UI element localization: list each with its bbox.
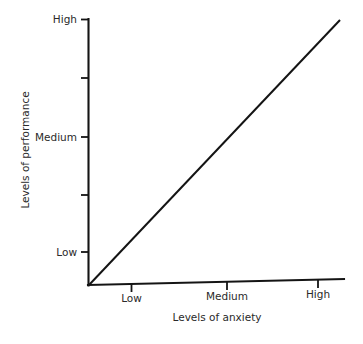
y-tick-label-high: High xyxy=(53,13,77,25)
data-series-group xyxy=(89,20,340,285)
x-axis-line xyxy=(88,279,344,285)
x-axis-title: Levels of anxiety xyxy=(173,311,262,323)
x-tick-label-high: High xyxy=(306,288,330,300)
y-tick-label-medium: Medium xyxy=(35,131,77,143)
chart-canvas: High Medium Low Low Medium High Levels o… xyxy=(0,0,363,344)
y-axis-tick-labels: High Medium Low xyxy=(35,13,77,258)
x-tick-label-low: Low xyxy=(121,292,142,304)
y-axis-ticks xyxy=(81,20,88,253)
x-axis-tick-labels: Low Medium High xyxy=(121,288,330,304)
chart-figure: High Medium Low Low Medium High Levels o… xyxy=(0,0,363,344)
series-line-performance xyxy=(89,20,340,285)
y-tick-label-low: Low xyxy=(56,246,77,258)
y-axis-title: Levels of performance xyxy=(19,91,31,208)
x-tick-label-medium: Medium xyxy=(206,290,248,302)
